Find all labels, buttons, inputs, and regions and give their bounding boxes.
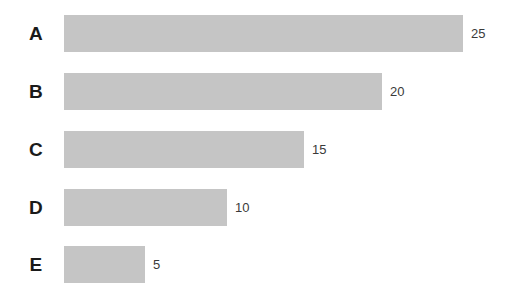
bar-d[interactable] bbox=[64, 189, 227, 226]
bar-row: E 5 bbox=[0, 246, 517, 283]
value-label-c: 15 bbox=[312, 131, 326, 168]
bar-row: A 25 bbox=[0, 15, 517, 52]
bar-row: B 20 bbox=[0, 73, 517, 110]
bar-b[interactable] bbox=[64, 73, 382, 110]
value-label-e: 5 bbox=[153, 246, 160, 283]
bar-row: D 10 bbox=[0, 189, 517, 226]
bar-row: C 15 bbox=[0, 131, 517, 168]
category-label-b: B bbox=[14, 73, 58, 110]
category-label-c: C bbox=[14, 131, 58, 168]
bar-a[interactable] bbox=[64, 15, 463, 52]
value-label-d: 10 bbox=[235, 189, 249, 226]
bar-e[interactable] bbox=[64, 246, 145, 283]
value-label-a: 25 bbox=[471, 15, 485, 52]
plot-area: A 25 B 20 C 15 D 10 E 5 bbox=[0, 0, 517, 294]
bar-c[interactable] bbox=[64, 131, 304, 168]
category-label-d: D bbox=[14, 189, 58, 226]
bar-chart: A 25 B 20 C 15 D 10 E 5 bbox=[0, 0, 517, 294]
value-label-b: 20 bbox=[390, 73, 404, 110]
category-label-a: A bbox=[14, 15, 58, 52]
category-label-e: E bbox=[14, 246, 58, 283]
